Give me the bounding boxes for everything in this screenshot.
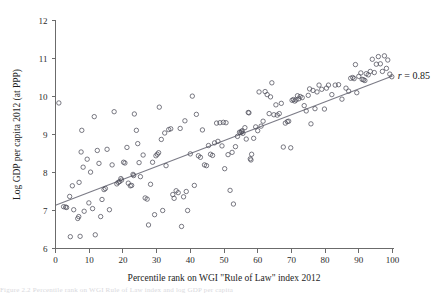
scatter-point: [244, 137, 248, 141]
scatter-point: [340, 97, 344, 101]
scatter-point: [100, 197, 104, 201]
scatter-point: [103, 186, 107, 190]
scatter-point: [363, 78, 367, 82]
scatter-point: [190, 94, 194, 98]
scatter-point: [220, 144, 224, 148]
scatter-point: [306, 93, 310, 97]
scatter-point: [78, 234, 82, 238]
x-tick-label: 90: [354, 255, 364, 265]
axes: [56, 21, 394, 249]
scatter-point: [134, 128, 138, 132]
y-axis-ticks: 6789101112: [39, 16, 56, 254]
scatter-point: [72, 208, 76, 212]
scatter-point: [384, 66, 388, 70]
scatter-point: [386, 58, 390, 62]
scatter-point: [81, 165, 85, 169]
scatter-point: [200, 128, 204, 132]
scatter-point: [372, 70, 376, 74]
scatter-point: [359, 71, 363, 75]
scatter-point: [160, 208, 164, 212]
scatter-point: [132, 112, 136, 116]
x-tick-label: 0: [53, 255, 58, 265]
scatter-point: [159, 137, 163, 141]
scatter-point: [183, 119, 187, 123]
scatter-point: [88, 170, 92, 174]
y-tick-label: 9: [43, 130, 48, 140]
scatter-point: [138, 174, 142, 178]
scatter-point: [185, 208, 189, 212]
scatter-point: [274, 103, 278, 107]
scatter-point: [261, 119, 265, 123]
x-tick-label: 20: [118, 255, 128, 265]
x-tick-label: 50: [220, 255, 230, 265]
scatter-point: [79, 150, 83, 154]
x-tick-label: 100: [386, 255, 400, 265]
y-tick-label: 7: [43, 206, 48, 216]
scatter-point: [157, 105, 161, 109]
scatter-point: [279, 101, 283, 105]
regression-line: [56, 76, 393, 205]
scatter-points: [57, 54, 394, 239]
scatter-point: [87, 201, 91, 205]
correlation-annotation: r = 0.85: [398, 70, 430, 81]
scatter-point: [228, 188, 232, 192]
scatter-point: [320, 87, 324, 91]
scatter-point: [95, 148, 99, 152]
x-tick-label: 80: [321, 255, 331, 265]
scatter-point: [233, 144, 237, 148]
scatter-point: [152, 212, 156, 216]
scatter-point: [123, 161, 127, 165]
scatter-point: [302, 103, 306, 107]
scatter-point: [125, 145, 129, 149]
scatter-point: [97, 161, 101, 165]
scatter-point: [355, 91, 359, 95]
scatter-point: [141, 153, 145, 157]
scatter-point: [102, 187, 106, 191]
figure-container: 0102030405060708090100 6789101112 Percen…: [0, 0, 437, 298]
scatter-point: [313, 106, 317, 110]
scatter-point: [330, 92, 334, 96]
scatter-point: [90, 206, 94, 210]
scatter-point: [93, 233, 97, 237]
x-axis-title: Percentile rank on WGI "Rule of Law" ind…: [128, 273, 321, 283]
correlation-label: r = 0.85: [398, 70, 430, 81]
scatter-point: [136, 141, 140, 145]
scatter-point: [257, 90, 261, 94]
scatter-point: [137, 160, 141, 164]
scatter-point: [178, 126, 182, 130]
x-tick-label: 10: [85, 255, 95, 265]
scatter-point: [179, 224, 183, 228]
scatter-point: [194, 112, 198, 116]
x-tick-label: 30: [152, 255, 162, 265]
scatter-point: [107, 208, 111, 212]
scatter-point: [67, 194, 71, 198]
scatter-point: [92, 114, 96, 118]
scatter-point: [192, 183, 196, 187]
scatter-point: [85, 157, 89, 161]
scatter-point: [322, 107, 326, 111]
scatter-point: [150, 160, 154, 164]
scatter-point: [162, 131, 166, 135]
scatter-point: [267, 111, 271, 115]
x-tick-label: 60: [253, 255, 263, 265]
scatter-point: [376, 54, 380, 58]
y-tick-label: 11: [39, 54, 48, 64]
scatter-point: [289, 146, 293, 150]
scatter-point: [226, 152, 230, 156]
scatter-point: [68, 235, 72, 239]
scatter-point: [82, 209, 86, 213]
scatter-point: [105, 147, 109, 151]
scatter-point: [172, 196, 176, 200]
figure-caption-fragment: Figure 2.2 Percentile rank on WGI Rule o…: [0, 286, 437, 298]
y-tick-label: 8: [43, 168, 48, 178]
y-tick-label: 12: [39, 16, 48, 26]
x-axis-ticks: 0102030405060708090100: [53, 249, 400, 265]
scatter-point: [317, 83, 321, 87]
scatter-point: [251, 136, 255, 140]
scatter-point: [181, 195, 185, 199]
scatter-point: [380, 69, 384, 73]
scatter-point: [281, 145, 285, 149]
scatter-point: [353, 62, 357, 66]
scatter-point: [315, 90, 319, 94]
scatter-point: [222, 167, 226, 171]
